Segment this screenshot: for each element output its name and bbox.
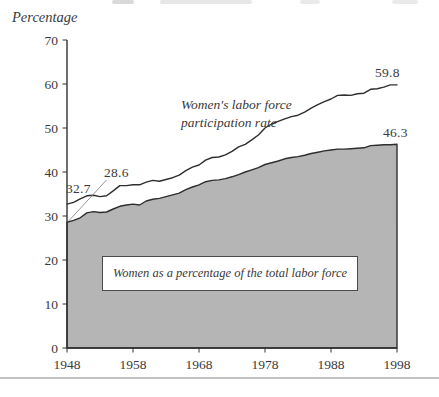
area-series-caption: Women as a percentage of the total labor…	[113, 266, 347, 281]
y-tick-label: 70	[45, 33, 59, 48]
chart-plot-area: 010203040506070194819581968197819881998	[0, 0, 439, 397]
figure-women-labor-force-chart: Percentage 01020304050607019481958196819…	[0, 0, 439, 397]
y-tick-label: 40	[45, 165, 59, 180]
y-tick-label: 10	[45, 297, 59, 312]
y-tick-label: 60	[45, 77, 59, 92]
x-tick-label: 1948	[54, 357, 81, 372]
x-tick-label: 1998	[384, 357, 411, 372]
line-series-label: Women's labor force participation rate	[181, 96, 292, 132]
value-label-area-end: 46.3	[383, 125, 408, 141]
area-series-caption-box: Women as a percentage of the total labor…	[102, 256, 358, 291]
x-tick-label: 1958	[120, 357, 147, 372]
page-divider-rule	[0, 377, 439, 379]
value-label-line-start: 32.7	[66, 181, 91, 197]
y-tick-label: 30	[45, 209, 59, 224]
value-label-area-start: 28.6	[104, 165, 129, 181]
value-label-line-end: 59.8	[375, 65, 400, 81]
y-tick-label: 50	[45, 121, 59, 136]
x-tick-label: 1978	[252, 357, 279, 372]
y-tick-label: 20	[45, 253, 59, 268]
x-tick-label: 1988	[318, 357, 345, 372]
x-tick-label: 1968	[186, 357, 213, 372]
y-tick-label: 0	[51, 341, 58, 356]
